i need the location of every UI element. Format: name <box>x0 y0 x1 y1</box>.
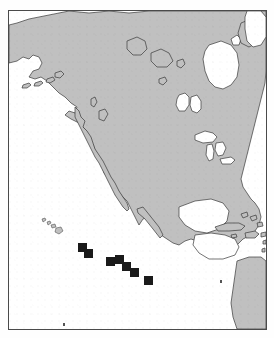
south-america <box>231 257 266 329</box>
locality-marker[interactable] <box>84 249 93 258</box>
jamaica <box>231 234 237 238</box>
puerto-rico <box>261 232 266 237</box>
lesser-antilles-2 <box>262 248 265 252</box>
locality-marker[interactable] <box>122 262 131 271</box>
maui <box>51 224 56 228</box>
lesser-antilles-1 <box>263 240 266 244</box>
bahamas-3 <box>257 222 263 227</box>
scan-dot <box>220 280 222 283</box>
scan-dot <box>63 323 65 326</box>
figure-caption <box>0 0 274 9</box>
locality-marker[interactable] <box>130 268 139 277</box>
greenland <box>245 11 266 47</box>
locality-marker[interactable] <box>106 257 115 266</box>
map-frame <box>8 10 267 330</box>
map-canvas <box>9 11 266 329</box>
map-figure <box>0 0 274 338</box>
locality-marker[interactable] <box>144 276 153 285</box>
